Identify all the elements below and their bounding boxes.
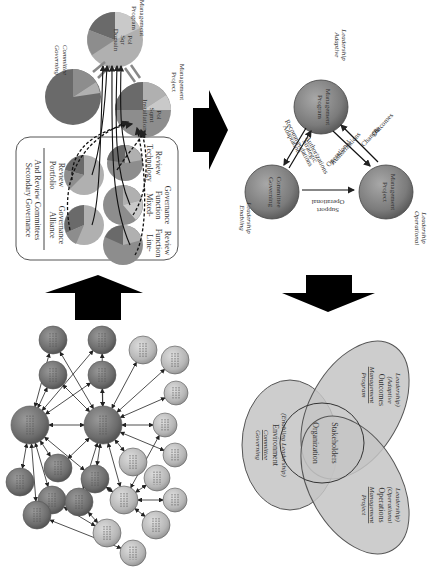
committee-label: Governance xyxy=(163,186,172,225)
network-node-light xyxy=(129,336,157,364)
network-edge xyxy=(108,443,120,486)
secondary-title-line2: And Review Committees xyxy=(33,160,42,241)
network-node-light xyxy=(110,486,138,514)
network-edge xyxy=(40,441,50,456)
enabling-leadership-line1: Enabling xyxy=(238,204,246,231)
network-node-light xyxy=(161,346,189,374)
committee-label: Portfolio xyxy=(48,161,57,189)
down-block-arrow xyxy=(282,275,375,312)
venn-project-line2: Management xyxy=(368,486,376,525)
network-edge xyxy=(120,398,165,418)
venn-program-line4: (Adaptive xyxy=(386,376,394,403)
pie-alliance xyxy=(64,205,104,245)
governance-figure: Secondary Governance And Review Committe… xyxy=(0,0,436,574)
tri-program-line1: Program xyxy=(316,95,324,120)
up-block-arrow xyxy=(45,275,143,320)
venn-governing-line4: (Enabling Leadership) xyxy=(280,413,288,477)
venn-program-line2: Management xyxy=(368,366,376,405)
right-block-arrow xyxy=(193,90,228,170)
network-edge xyxy=(117,369,165,412)
network-edge xyxy=(31,444,35,501)
governance-panel: Secondary Governance And Review Committe… xyxy=(16,0,186,265)
governing-committee-label-line1: Governing xyxy=(53,45,61,75)
network-edge xyxy=(63,385,90,412)
tri-program-line2: Management xyxy=(324,89,332,126)
edge-operational-auth-line2: Authorizations xyxy=(329,130,363,166)
project-management-label-line2: Management xyxy=(178,64,186,101)
network-edge xyxy=(106,487,112,492)
network-node-dark xyxy=(6,468,34,496)
tri-project-line2: Management xyxy=(389,174,397,211)
edge-operational-support-line1: Operational xyxy=(311,198,344,206)
venn-project-line4: (Operational xyxy=(386,487,394,524)
secondary-title-line1: Secondary Governance xyxy=(24,163,33,238)
committee-label: Review xyxy=(163,231,172,256)
program-management-label-line2: Management xyxy=(138,0,146,36)
venn-project-line1: Project xyxy=(360,494,368,516)
committee-label: Mixed- xyxy=(145,193,154,217)
network-edge xyxy=(121,432,164,450)
program-inner-line1: Domain xyxy=(112,29,120,52)
network-node-dark xyxy=(65,488,93,516)
network-node-dark xyxy=(44,454,72,482)
pie-mixed-function xyxy=(103,185,143,225)
committee-label: Technology xyxy=(145,144,154,182)
edge-changes-line3: Outcomes xyxy=(370,111,395,138)
program-inner-line2: Sqr xyxy=(119,35,127,45)
operational-leadership-line2: Leadership xyxy=(420,211,428,244)
network-node-dark xyxy=(23,501,51,529)
network-edge xyxy=(112,362,136,408)
network-edge xyxy=(68,438,89,458)
venn-program-line1: Program xyxy=(360,371,368,397)
triangle-panel: Program Management Governing Committee P… xyxy=(238,28,428,245)
network-node-light xyxy=(142,511,170,539)
project-inner-line2: Sqmt xyxy=(148,108,156,123)
project-inner-line1: Installation xyxy=(141,99,149,131)
network-node-dark xyxy=(88,326,116,354)
adaptive-leadership-line2: Leadership xyxy=(340,28,348,61)
venn-program-line3: Outcomes xyxy=(377,374,386,406)
venn-center-stakeholders: Stakeholders xyxy=(330,422,339,463)
committee-label: Review xyxy=(154,151,163,176)
network-node-dark xyxy=(88,361,116,389)
venn-project-line5: Leadership) xyxy=(394,487,402,523)
tri-governing-line1: Governing xyxy=(267,177,275,207)
tri-governing-line2: Committee xyxy=(275,176,283,207)
edge-operational-support-line2: Support xyxy=(317,206,339,214)
network-node-dark xyxy=(11,406,49,444)
venn-governing-line3: Environment xyxy=(271,424,280,467)
project-inner-line3: Pol xyxy=(155,110,163,119)
operational-leadership-line1: Operational xyxy=(413,211,421,245)
network-edge xyxy=(22,444,26,468)
network-panel xyxy=(6,326,189,566)
network-node-dark xyxy=(39,326,67,354)
network-edge xyxy=(88,512,97,522)
network-edge xyxy=(97,444,100,465)
project-management-label-line1: Project xyxy=(170,72,178,92)
venn-program-line5: Leadership) xyxy=(394,372,402,408)
venn-governing-line1: Governing xyxy=(254,430,262,460)
venn-project-line3: Operations xyxy=(377,487,386,522)
program-inner-line3: Pol xyxy=(126,35,134,44)
committee-label: Function xyxy=(154,229,163,257)
network-node-dark xyxy=(84,406,122,444)
tri-project-line1: Project xyxy=(381,182,389,202)
venn-panel: Governing Committee Environment (Enablin… xyxy=(242,323,431,573)
committee-label: Alliance xyxy=(48,211,57,239)
governing-committee-label-line2: Committee xyxy=(61,45,69,75)
pie-governing-committee xyxy=(45,69,101,125)
network-node-dark xyxy=(39,361,67,389)
enabling-leadership-line2: Leadership xyxy=(245,201,253,234)
program-management-label-line1: Program xyxy=(130,6,138,31)
venn-governing-line2: Committee xyxy=(262,430,270,460)
network-edge xyxy=(115,440,124,451)
pie-line-function xyxy=(103,225,143,265)
network-node-light xyxy=(119,448,147,476)
network-edge xyxy=(135,509,145,517)
adaptive-leadership-line1: Adaptive xyxy=(333,32,341,58)
committee-label: Line- xyxy=(145,234,154,252)
network-node-light xyxy=(93,519,121,547)
network-node-dark xyxy=(81,465,109,493)
network-edge xyxy=(136,485,147,492)
venn-center-organization: Organization xyxy=(311,422,320,464)
